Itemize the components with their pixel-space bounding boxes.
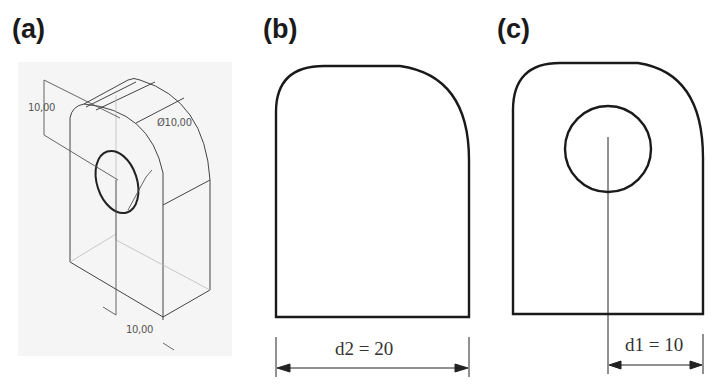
arrowhead-right: [690, 361, 702, 369]
arrowhead-left: [609, 361, 621, 369]
profile-c-drawing: [0, 0, 726, 390]
dimension-label-d1: d1 = 10: [625, 335, 683, 354]
